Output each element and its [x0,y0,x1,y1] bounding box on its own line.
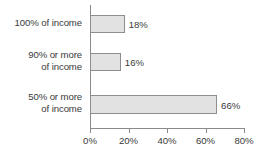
x-axis-tick-3 [206,128,207,133]
category-label-0: 100% of income [0,17,82,29]
category-label-2: 50% or more of income [0,91,82,114]
plot-area: 18% 16% 66% [90,5,245,128]
bar-value-label-0: 18% [129,19,148,30]
x-axis-tick-1 [129,128,130,133]
x-axis-tick-label-2: 40% [157,135,176,146]
x-axis-tick-0 [90,128,91,133]
x-axis-tick-label-3: 60% [196,135,215,146]
bar-2 [90,95,217,114]
x-axis-tick-label-1: 20% [119,135,138,146]
bar-value-label-1: 16% [125,57,144,68]
bar-0 [90,15,125,33]
x-axis-tick-label-4: 80% [234,135,253,146]
x-axis-tick-4 [244,128,245,133]
category-label-1: 90% or more of income [0,49,82,72]
x-axis-tick-label-0: 0% [83,135,97,146]
bar-value-label-2: 66% [221,100,240,111]
category-axis-labels: 100% of income 90% or more of income 50%… [0,0,86,128]
x-axis: 0%20%40%60%80% [90,128,245,153]
bar-1 [90,53,121,71]
x-axis-tick-2 [167,128,168,133]
bar-chart: 100% of income 90% or more of income 50%… [0,0,262,153]
